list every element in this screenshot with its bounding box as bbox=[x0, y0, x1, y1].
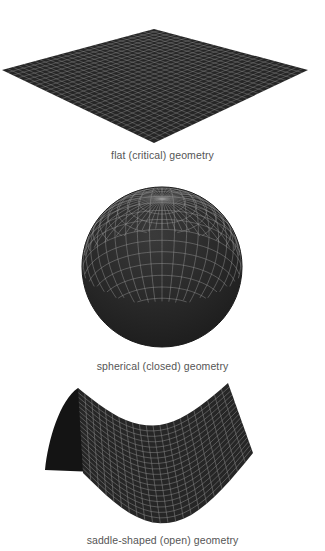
saddle-surface-illustration bbox=[0, 375, 325, 535]
flat-geometry-panel bbox=[0, 0, 325, 150]
sphere-illustration bbox=[0, 170, 325, 360]
spherical-geometry-panel bbox=[0, 170, 325, 360]
saddle-geometry-panel bbox=[0, 375, 325, 535]
flat-plane-illustration bbox=[0, 0, 325, 150]
saddle-geometry-caption: saddle-shaped (open) geometry bbox=[0, 534, 325, 546]
spherical-geometry-caption: spherical (closed) geometry bbox=[0, 360, 325, 372]
flat-geometry-caption: flat (critical) geometry bbox=[0, 149, 325, 161]
